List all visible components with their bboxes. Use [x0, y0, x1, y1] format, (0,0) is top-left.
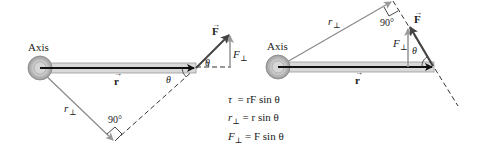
- left-axis-label: Axis: [28, 41, 49, 53]
- svg-text:⊥: ⊥: [333, 21, 341, 30]
- left-theta-2: θ: [166, 74, 171, 85]
- left-right-angle-label: 90°: [108, 114, 122, 125]
- svg-text:→: →: [414, 8, 422, 17]
- right-F-perp-label: F: [392, 37, 400, 49]
- equations-block: τ = rF sin θ r⊥ = r sin θ F⊥ = F sin θ: [228, 92, 284, 149]
- torque-diagram: Axis r → F → F ⊥ θ θ r ⊥ 90° Axis r →: [0, 0, 482, 151]
- right-theta-label: θ: [412, 45, 417, 56]
- eq-sub: ⊥: [235, 137, 243, 146]
- right-axis-label: Axis: [267, 40, 288, 52]
- left-panel: Axis r → F → F ⊥ θ θ r ⊥ 90°: [28, 20, 248, 141]
- eq-lhs: F: [228, 130, 235, 142]
- eq-rhs: = r sin θ: [243, 111, 279, 123]
- svg-text:→: →: [114, 69, 122, 78]
- equation-torque: τ = rF sin θ: [228, 92, 284, 110]
- eq-sub: ⊥: [232, 117, 240, 126]
- left-F-perp-label: F: [232, 48, 240, 60]
- left-right-angle-mark: [107, 127, 122, 141]
- right-right-angle-mark: [384, 7, 398, 16]
- svg-text:⊥: ⊥: [400, 43, 408, 52]
- svg-text:⊥: ⊥: [240, 54, 248, 63]
- right-panel: Axis r → F → F ⊥ θ r ⊥ 90°: [266, 1, 458, 106]
- left-F-vector: [196, 35, 229, 68]
- svg-text:→: →: [212, 20, 220, 29]
- eq-rhs: = rF sin θ: [237, 93, 279, 105]
- right-right-angle-label: 90°: [380, 17, 394, 28]
- left-line-of-action: [117, 68, 196, 139]
- right-r-perp-line: [280, 2, 391, 66]
- equation-r-perp: r⊥ = r sin θ: [228, 110, 284, 129]
- svg-text:⊥: ⊥: [69, 108, 77, 117]
- eq-lhs: τ: [228, 93, 232, 105]
- svg-text:→: →: [355, 68, 363, 77]
- left-theta-1: θ: [205, 57, 210, 68]
- left-r-perp-line: [40, 70, 113, 140]
- eq-rhs: = F sin θ: [245, 130, 284, 142]
- equation-F-perp: F⊥ = F sin θ: [228, 129, 284, 148]
